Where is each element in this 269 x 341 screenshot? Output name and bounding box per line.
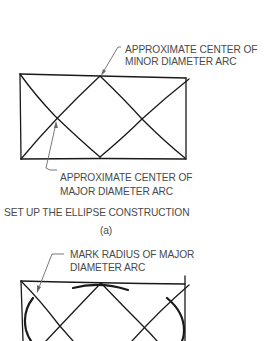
figure-a-leaders	[46, 47, 121, 170]
mark-radius-label-line1: MARK RADIUS OF MAJOR	[70, 249, 194, 261]
figure-b-leader	[38, 254, 64, 290]
leader-arrowhead	[37, 285, 41, 293]
figure-b-ellipse-construction	[21, 276, 189, 341]
minor-center-label-line1: APPROXIMATE CENTER OF	[125, 44, 257, 56]
major-center-label-line2: MAJOR DIAMETER ARC	[60, 186, 173, 198]
major-center-label-line1: APPROXIMATE CENTER OF	[60, 172, 192, 184]
figure-a-caption: SET UP THE ELLIPSE CONSTRUCTION	[4, 207, 189, 219]
minor-center-label-line2: MINOR DIAMETER ARC	[125, 56, 236, 68]
figure-a-subcaption: (a)	[100, 225, 112, 237]
figure-a-rectangle-construction	[20, 74, 189, 159]
mark-radius-label-line2: DIAMETER ARC	[70, 262, 145, 274]
